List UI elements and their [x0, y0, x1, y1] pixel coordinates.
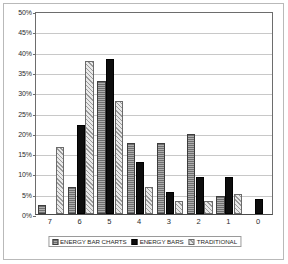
y-axis-tick-label: 45% — [18, 29, 32, 36]
y-axis-tick-label: 25% — [18, 110, 32, 117]
legend-label: TRADITIONAL — [197, 238, 237, 245]
bar — [234, 194, 242, 214]
legend-item[interactable]: TRADITIONAL — [189, 238, 237, 245]
bar-group — [246, 13, 272, 214]
legend-label: ENERGY BAR CHARTS — [60, 238, 127, 245]
bar — [77, 125, 85, 214]
bar — [216, 196, 224, 214]
bar — [196, 177, 204, 214]
x-axis-tick-label: 5 — [107, 217, 111, 226]
legend-swatch-icon — [189, 239, 195, 245]
y-axis-tick-label: 0% — [22, 212, 32, 219]
x-axis-tick-label: 0 — [256, 217, 260, 226]
legend-swatch-icon — [52, 239, 58, 245]
chart-plot-wrapper: 0%5%10%15%20%25%30%35%40%45%50% 76543210… — [4, 4, 285, 261]
bar-group — [68, 13, 94, 214]
bar — [166, 192, 174, 214]
y-axis-tick-label: 50% — [18, 9, 32, 16]
chart-legend: ENERGY BAR CHARTSENERGY BARSTRADITIONAL — [48, 236, 241, 247]
bar-series-layer — [36, 13, 272, 214]
bar-group — [216, 13, 242, 214]
x-axis-tick-label: 6 — [78, 217, 82, 226]
y-axis-tick-label: 10% — [18, 171, 32, 178]
bar — [136, 162, 144, 214]
bar — [145, 187, 153, 214]
bar-group — [38, 13, 64, 214]
y-axis: 0%5%10%15%20%25%30%35%40%45%50% — [4, 12, 34, 215]
x-axis-tick-label: 3 — [167, 217, 171, 226]
x-axis: 76543210 — [35, 217, 273, 231]
legend-item[interactable]: ENERGY BARS — [132, 238, 184, 245]
y-axis-tick-label: 15% — [18, 151, 32, 158]
bar-group — [127, 13, 153, 214]
bar — [56, 147, 64, 214]
y-axis-tick-label: 30% — [18, 90, 32, 97]
bar — [187, 134, 195, 214]
plot-area — [35, 12, 273, 215]
x-axis-tick-label: 4 — [137, 217, 141, 226]
x-axis-tick-label: 7 — [48, 217, 52, 226]
bar — [68, 187, 76, 214]
bar — [225, 177, 233, 214]
legend-item[interactable]: ENERGY BAR CHARTS — [52, 238, 127, 245]
bar — [97, 81, 105, 214]
bar — [85, 61, 93, 214]
y-axis-tick-label: 5% — [22, 191, 32, 198]
bar-group — [97, 13, 123, 214]
bar-group — [157, 13, 183, 214]
chart-frame: 0%5%10%15%20%25%30%35%40%45%50% 76543210… — [3, 3, 284, 260]
bar — [127, 143, 135, 214]
y-axis-tick-label: 20% — [18, 130, 32, 137]
bar — [115, 101, 123, 214]
y-axis-tick-label: 40% — [18, 49, 32, 56]
bar — [157, 143, 165, 214]
x-axis-tick-label: 1 — [226, 217, 230, 226]
y-axis-tick-label: 35% — [18, 69, 32, 76]
bar — [255, 199, 263, 214]
bar-group — [187, 13, 213, 214]
legend-label: ENERGY BARS — [140, 238, 184, 245]
legend-swatch-icon — [132, 239, 138, 245]
bar — [175, 201, 183, 214]
x-axis-tick-label: 2 — [197, 217, 201, 226]
bar — [106, 59, 114, 214]
bar — [38, 205, 46, 214]
bar — [204, 201, 212, 214]
